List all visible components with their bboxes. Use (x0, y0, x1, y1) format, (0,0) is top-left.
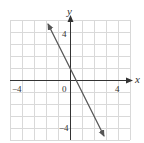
tick-label-x-neg4: −4 (12, 84, 22, 94)
line-series-lower (76, 80, 104, 136)
tick-label-y-pos4: 4 (62, 29, 67, 39)
x-axis-label: x (134, 73, 140, 85)
y-axis-label: y (66, 5, 72, 17)
origin-label: 0 (62, 84, 67, 94)
tick-label-y-neg4: −4 (59, 123, 69, 133)
coordinate-plane: y x 4 −4 −4 0 4 (0, 0, 144, 143)
tick-label-x-pos4: 4 (115, 84, 120, 94)
